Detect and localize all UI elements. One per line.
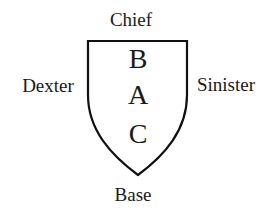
shield-diagram: Chief Dexter Sinister Base B A C: [0, 0, 273, 217]
point-c: C: [129, 118, 148, 149]
label-base: Base: [115, 184, 152, 205]
label-chief: Chief: [110, 9, 153, 30]
point-a: A: [128, 79, 149, 110]
label-sinister: Sinister: [197, 74, 256, 95]
label-dexter: Dexter: [22, 75, 74, 96]
point-b: B: [129, 43, 148, 74]
